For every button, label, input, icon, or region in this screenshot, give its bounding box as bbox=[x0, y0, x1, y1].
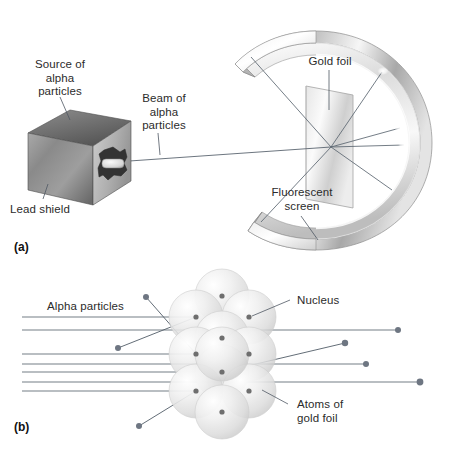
incoming-alpha-beam bbox=[115, 147, 331, 162]
nucleus-dot bbox=[219, 409, 224, 414]
label-beam-of-alpha-particles: Beam of alpha particles bbox=[127, 92, 201, 133]
alpha-particle-dot bbox=[417, 379, 424, 386]
rutherford-experiment-figure: Source of alpha particles Lead shield Be… bbox=[0, 0, 449, 456]
nucleus-dot bbox=[246, 351, 251, 356]
nucleus-dot bbox=[219, 293, 224, 298]
alpha-particle-dot bbox=[342, 340, 348, 346]
impact-spot-center bbox=[398, 142, 410, 149]
alpha-source-capsule bbox=[102, 159, 124, 168]
label-fluorescent-screen: Fluorescent screen bbox=[258, 186, 346, 213]
nucleus-dot bbox=[246, 314, 251, 319]
nucleus-dot bbox=[193, 388, 198, 393]
alpha-particle-dot bbox=[363, 361, 369, 367]
label-atoms-of-gold-foil: Atoms of gold foil bbox=[297, 398, 383, 425]
lead-shield-cube bbox=[28, 110, 131, 205]
alpha-particle-dot bbox=[395, 327, 401, 333]
label-source-of-alpha-particles: Source of alpha particles bbox=[14, 58, 106, 99]
alpha-particle-dot bbox=[115, 345, 121, 351]
cube-front-face bbox=[28, 133, 93, 205]
alpha-particle-dot bbox=[136, 423, 142, 429]
nucleus-dot bbox=[193, 351, 198, 356]
nucleus-dot bbox=[219, 369, 224, 374]
impact-spot-mid-upper bbox=[394, 124, 408, 132]
leader-beam bbox=[158, 133, 160, 155]
panel-label-b: (b) bbox=[14, 420, 29, 434]
nucleus-dot bbox=[219, 335, 224, 340]
panel-label-a: (a) bbox=[14, 240, 29, 254]
impact-spot-upper bbox=[378, 67, 389, 75]
label-alpha-particles: Alpha particles bbox=[47, 300, 167, 314]
label-nucleus: Nucleus bbox=[297, 294, 377, 308]
label-lead-shield: Lead shield bbox=[10, 203, 120, 217]
label-gold-foil: Gold foil bbox=[295, 55, 365, 69]
nucleus-dot bbox=[246, 388, 251, 393]
nucleus-dot bbox=[193, 314, 198, 319]
